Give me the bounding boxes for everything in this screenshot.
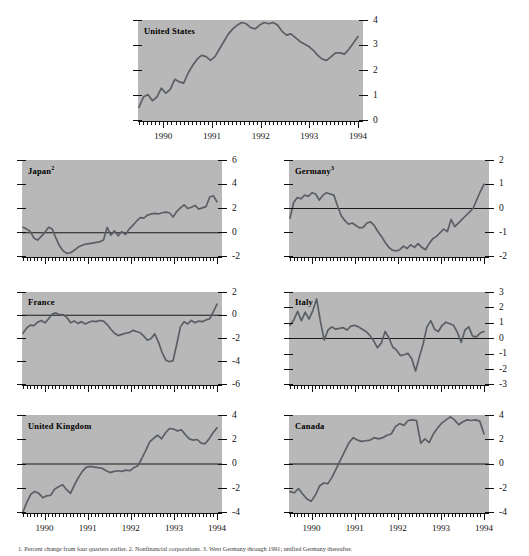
x-tick-mark bbox=[419, 386, 420, 389]
x-tick-mark bbox=[376, 514, 377, 517]
x-tick-mark bbox=[365, 514, 366, 517]
x-tick-mark bbox=[113, 258, 114, 261]
y-tick-mark bbox=[218, 488, 227, 489]
y-tick-mark bbox=[17, 361, 26, 362]
x-tick-mark bbox=[477, 514, 478, 517]
x-tick-mark bbox=[120, 514, 121, 517]
x-axis-label: 1993 bbox=[425, 524, 457, 533]
x-tick-mark bbox=[131, 386, 132, 392]
x-tick-mark bbox=[188, 122, 189, 125]
y-tick-mark bbox=[284, 208, 293, 209]
x-tick-mark bbox=[59, 514, 60, 517]
y-tick-mark bbox=[284, 415, 293, 416]
x-tick-mark bbox=[398, 514, 399, 520]
x-tick-mark bbox=[340, 258, 341, 261]
x-tick-mark bbox=[253, 122, 254, 125]
y-axis-label: 0 bbox=[499, 334, 504, 344]
x-tick-mark bbox=[120, 386, 121, 389]
x-tick-mark bbox=[30, 258, 31, 261]
panel-title-germany: Germany3 bbox=[295, 165, 334, 176]
x-tick-mark bbox=[312, 258, 313, 264]
y-tick-mark bbox=[284, 439, 293, 440]
x-axis-label: 1992 bbox=[245, 132, 277, 141]
y-axis-label: 2 bbox=[232, 435, 237, 445]
panel-title-united-states: United States bbox=[144, 25, 195, 36]
panel-canada: Canada 420-2-419901991199219931994 bbox=[289, 415, 489, 513]
y-tick-mark bbox=[218, 208, 227, 209]
x-axis-label: 1990 bbox=[29, 524, 61, 533]
x-tick-mark bbox=[30, 386, 31, 389]
x-tick-mark bbox=[326, 514, 327, 517]
x-tick-mark bbox=[106, 386, 107, 389]
x-tick-mark bbox=[249, 122, 250, 125]
x-tick-mark bbox=[444, 386, 445, 389]
x-tick-mark bbox=[308, 514, 309, 517]
x-tick-mark bbox=[184, 122, 185, 125]
x-tick-mark bbox=[203, 514, 204, 517]
x-tick-mark bbox=[23, 258, 24, 261]
y-tick-mark bbox=[485, 232, 494, 233]
x-tick-mark bbox=[188, 258, 189, 261]
x-tick-mark bbox=[444, 258, 445, 261]
x-tick-mark bbox=[45, 386, 46, 392]
x-tick-mark bbox=[391, 386, 392, 389]
y-tick-mark bbox=[485, 323, 494, 324]
x-tick-mark bbox=[312, 514, 313, 520]
y-tick-mark bbox=[485, 160, 494, 161]
x-tick-mark bbox=[409, 258, 410, 261]
x-tick-mark bbox=[387, 258, 388, 261]
x-tick-mark bbox=[365, 386, 366, 389]
x-tick-mark bbox=[394, 258, 395, 261]
x-tick-mark bbox=[210, 386, 211, 389]
x-tick-mark bbox=[480, 386, 481, 389]
x-tick-mark bbox=[430, 514, 431, 517]
x-axis-label: 1991 bbox=[196, 132, 228, 141]
panel-title-canada: Canada bbox=[295, 420, 325, 431]
x-tick-mark bbox=[297, 386, 298, 389]
x-tick-mark bbox=[181, 514, 182, 517]
x-axis-label: 1993 bbox=[158, 524, 190, 533]
y-axis-label: 2 bbox=[373, 66, 378, 76]
x-tick-mark bbox=[484, 514, 485, 520]
x-tick-mark bbox=[124, 258, 125, 261]
x-tick-mark bbox=[304, 386, 305, 389]
x-tick-mark bbox=[152, 514, 153, 517]
x-tick-mark bbox=[448, 258, 449, 261]
x-tick-mark bbox=[213, 386, 214, 389]
x-tick-mark bbox=[23, 514, 24, 517]
x-tick-mark bbox=[77, 258, 78, 261]
y-tick-mark bbox=[485, 208, 494, 209]
x-tick-mark bbox=[305, 122, 306, 125]
x-tick-mark bbox=[452, 258, 453, 261]
x-tick-mark bbox=[95, 258, 96, 261]
x-tick-mark bbox=[199, 386, 200, 389]
x-tick-mark bbox=[257, 122, 258, 125]
y-axis-label: 1 bbox=[373, 91, 378, 101]
x-tick-mark bbox=[171, 122, 172, 125]
x-tick-mark bbox=[301, 122, 302, 125]
y-tick-mark bbox=[485, 439, 494, 440]
x-tick-mark bbox=[333, 386, 334, 389]
x-tick-mark bbox=[34, 514, 35, 517]
x-tick-mark bbox=[167, 122, 168, 125]
x-tick-mark bbox=[63, 258, 64, 261]
x-tick-mark bbox=[470, 514, 471, 517]
x-tick-mark bbox=[383, 514, 384, 517]
x-tick-mark bbox=[350, 122, 351, 125]
x-tick-mark bbox=[48, 258, 49, 261]
x-tick-mark bbox=[452, 514, 453, 517]
y-tick-mark bbox=[133, 45, 142, 46]
x-tick-mark bbox=[401, 514, 402, 517]
figure-footnote: 1. Percent change from four quarters ear… bbox=[18, 545, 523, 555]
x-tick-mark bbox=[416, 514, 417, 517]
x-tick-mark bbox=[167, 514, 168, 517]
y-tick-mark bbox=[284, 292, 293, 293]
x-tick-mark bbox=[319, 258, 320, 261]
x-tick-mark bbox=[373, 514, 374, 517]
x-tick-mark bbox=[273, 122, 274, 125]
x-tick-mark bbox=[416, 386, 417, 389]
x-tick-mark bbox=[351, 514, 352, 517]
y-tick-mark bbox=[485, 415, 494, 416]
panel-japan: Japan2 6420-2 bbox=[22, 160, 222, 257]
x-tick-mark bbox=[437, 258, 438, 261]
